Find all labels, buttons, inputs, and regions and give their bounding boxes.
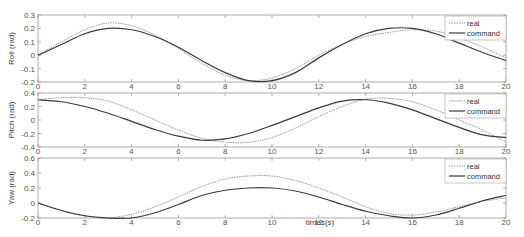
x-tick-label: 2 xyxy=(83,147,88,156)
y-tick-label: 0 xyxy=(31,51,36,60)
y-tick-label: 0.3 xyxy=(24,11,36,20)
x-tick-label: 18 xyxy=(455,147,464,156)
x-tick-label: 6 xyxy=(176,218,181,227)
roll-subplot: 02468101214161820-0.2-0.100.10.20.3Roll … xyxy=(7,11,511,91)
y-tick-label: -0.4 xyxy=(21,143,35,152)
x-tick-label: 18 xyxy=(455,82,464,91)
y-tick-label: 0.2 xyxy=(24,24,36,33)
x-tick-label: 12 xyxy=(314,147,323,156)
x-tick-label: 6 xyxy=(176,82,181,91)
y-tick-label: -0.1 xyxy=(21,65,35,74)
x-tick-label: 8 xyxy=(223,147,228,156)
command-legend-label: command xyxy=(467,29,500,38)
y-tick-label: -0.2 xyxy=(21,78,35,87)
x-tick-label: 4 xyxy=(129,218,134,227)
real-legend-label: real xyxy=(467,162,480,171)
y-tick-label: 0.4 xyxy=(24,89,36,98)
x-tick-label: 8 xyxy=(223,218,228,227)
attitude-tracking-figure: 02468101214161820-0.2-0.100.10.20.3Roll … xyxy=(0,0,524,237)
x-tick-label: 18 xyxy=(455,218,464,227)
x-axis-label: times(s) xyxy=(306,218,335,227)
roll-axes-box xyxy=(38,15,506,82)
y-tick-label: 0.2 xyxy=(24,184,36,193)
x-tick-label: 16 xyxy=(408,82,417,91)
x-tick-label: 0 xyxy=(36,147,41,156)
y-tick-label: 0.6 xyxy=(24,154,36,163)
x-tick-label: 12 xyxy=(314,82,323,91)
x-tick-label: 4 xyxy=(129,82,134,91)
x-tick-label: 2 xyxy=(83,218,88,227)
x-tick-label: 6 xyxy=(176,147,181,156)
x-tick-label: 14 xyxy=(361,82,370,91)
command-legend-label: command xyxy=(467,107,500,116)
x-tick-label: 4 xyxy=(129,147,134,156)
y-tick-label: -0.2 xyxy=(21,130,35,139)
real-legend-label: real xyxy=(467,19,480,28)
command-legend-label: command xyxy=(467,172,500,181)
x-tick-label: 16 xyxy=(408,218,417,227)
y-tick-label: 0.4 xyxy=(24,169,36,178)
legend: realcommand xyxy=(445,94,506,118)
pitch-subplot: 02468101214161820-0.4-0.200.20.4Pitch (r… xyxy=(7,89,511,156)
real-legend-label: real xyxy=(467,97,480,106)
x-tick-label: 16 xyxy=(408,147,417,156)
x-tick-label: 20 xyxy=(502,147,511,156)
legend: realcommand xyxy=(445,159,506,183)
y-tick-label: 0 xyxy=(31,199,36,208)
y-axis-label: Yaw (rad) xyxy=(7,171,16,205)
x-tick-label: 14 xyxy=(361,147,370,156)
x-tick-label: 14 xyxy=(361,218,370,227)
legend: realcommand xyxy=(445,16,506,40)
x-tick-label: 20 xyxy=(502,82,511,91)
x-tick-label: 10 xyxy=(268,82,277,91)
x-tick-label: 2 xyxy=(83,82,88,91)
x-tick-label: 20 xyxy=(502,218,511,227)
x-tick-label: 8 xyxy=(223,82,228,91)
y-axis-label: Roll (rad) xyxy=(7,32,16,65)
x-tick-label: 0 xyxy=(36,82,41,91)
y-tick-label: 0.1 xyxy=(24,38,36,47)
x-tick-label: 10 xyxy=(268,147,277,156)
y-tick-label: 0 xyxy=(31,116,36,125)
yaw-subplot: 02468101214161820-0.200.20.40.6Yaw (rad)… xyxy=(7,154,511,227)
y-axis-label: Pitch (rad) xyxy=(7,101,16,138)
y-tick-label: -0.2 xyxy=(21,214,35,223)
y-tick-label: 0.2 xyxy=(24,103,36,112)
x-tick-label: 10 xyxy=(268,218,277,227)
x-tick-label: 0 xyxy=(36,218,41,227)
